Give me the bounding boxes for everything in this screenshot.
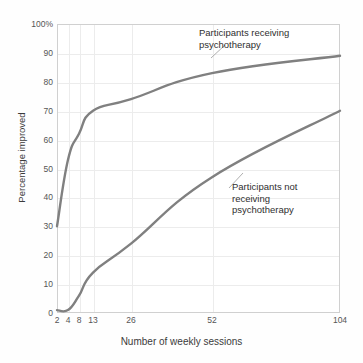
y-axis-tick-label: 10 [5,280,53,289]
y-axis-tick-label: 50 [5,165,53,174]
x-axis-tick-label: 26 [126,316,135,325]
gridline-horizontal [58,227,339,228]
chart-figure: 0102030405060708090100% Percentage impro… [0,0,363,363]
x-axis-tick-label: 13 [88,316,97,325]
gridline-vertical [94,25,95,312]
x-axis-tick-label: 8 [77,316,82,325]
y-axis-tick-label: 40 [5,193,53,202]
x-axis-tick-label: 4 [66,316,71,325]
gridline-horizontal [58,285,339,286]
y-axis-tick-label: 60 [5,136,53,145]
gridline-horizontal [58,83,339,84]
x-axis-tick-labels: 248132652104 [0,316,363,328]
x-axis-tick-label: 104 [333,316,347,325]
gridline-vertical [213,25,214,312]
x-axis-tick-label: 52 [207,316,216,325]
annotation-participants-not-receiving: Participants not receiving psychotherapy [232,181,297,216]
gridline-horizontal [58,141,339,142]
y-axis-tick-labels: 0102030405060708090100% [0,24,53,313]
annotation-participants-receiving: Participants receiving psychotherapy [199,27,289,50]
gridline-vertical [132,25,133,312]
y-axis-tick-label: 30 [5,222,53,231]
x-axis-title: Number of weekly sessions [0,336,363,347]
gridline-horizontal [58,256,339,257]
gridline-vertical [80,25,81,312]
plot-area [57,24,340,313]
gridline-horizontal [58,112,339,113]
y-axis-tick-label: 70 [5,107,53,116]
y-axis-tick-label: 20 [5,251,53,260]
y-axis-tick-label: 90 [5,49,53,58]
y-axis-title: Percentage improved [16,68,27,248]
y-axis-tick-label: 100% [5,20,53,29]
y-axis-tick-label: 80 [5,78,53,87]
x-axis-tick-label: 2 [55,316,60,325]
gridline-horizontal [58,170,339,171]
gridline-vertical [69,25,70,312]
gridline-horizontal [58,54,339,55]
